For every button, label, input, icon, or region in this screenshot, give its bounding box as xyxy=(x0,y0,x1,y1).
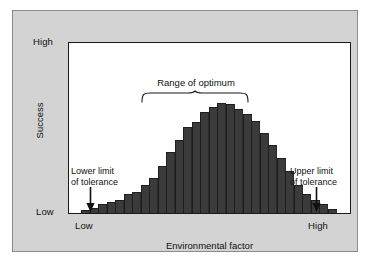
annotation-upper-limit-line1: Upper limit xyxy=(290,166,337,177)
y-axis-tick-low: Low xyxy=(36,206,54,217)
optimum-brace-icon xyxy=(141,90,249,103)
x-axis-tick-high: High xyxy=(308,220,328,231)
annotation-upper-limit: Upper limit of tolerance xyxy=(290,166,337,188)
figure-panel: High Low Success Low High Environmental … xyxy=(12,10,358,252)
annotation-range-of-optimum: Range of optimum xyxy=(136,77,256,88)
x-axis-tick-low: Low xyxy=(75,220,93,231)
y-axis-tick-high: High xyxy=(33,36,53,47)
figure-container: High Low Success Low High Environmental … xyxy=(0,0,370,261)
plot-area xyxy=(68,42,351,214)
y-axis-title: Success xyxy=(34,86,45,156)
arrow-down-icon-upper xyxy=(311,187,322,213)
x-axis-title: Environmental factor xyxy=(68,240,351,251)
annotation-lower-limit-line1: Lower limit xyxy=(71,166,118,177)
arrow-down-icon-lower xyxy=(85,187,96,213)
annotation-lower-limit: Lower limit of tolerance xyxy=(71,166,118,188)
histogram-bar xyxy=(328,209,337,213)
